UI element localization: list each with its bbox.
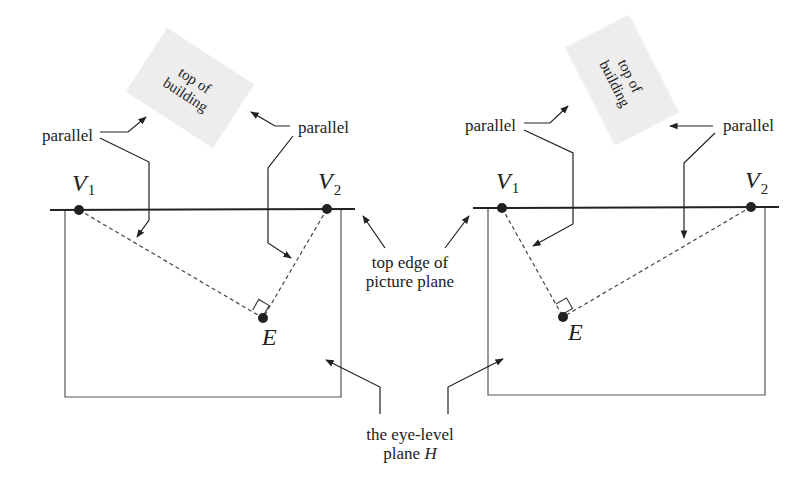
right-sightline-v1: [502, 208, 563, 317]
right-sightline-v2: [563, 207, 751, 317]
left-parallel2-arrow-building: [251, 112, 290, 126]
right-v1-label: V1: [496, 168, 519, 196]
left-e-point: [258, 313, 268, 323]
left-parallel-label-1: parallel: [42, 126, 93, 145]
right-eye-level-plane: [488, 207, 765, 395]
right-parallel2-arrow-sightline: [684, 133, 715, 238]
left-parallel-label-2: parallel: [298, 118, 349, 137]
left-eye-level-plane: [65, 210, 341, 397]
picture-plane-arrow-left: [363, 216, 385, 248]
left-parallel2-arrow-sightline: [268, 136, 293, 258]
eye-level-label-line2: plane H: [383, 444, 438, 463]
left-e-label: E: [261, 324, 277, 350]
right-picture-plane-edge: [473, 207, 779, 208]
center-labels: top edge of picture plane the eye-level …: [326, 216, 503, 463]
right-v1-point: [497, 203, 507, 213]
left-sightline-v1: [79, 210, 263, 318]
left-parallel-arrow-building: [100, 117, 146, 132]
right-right-angle-marker: [556, 298, 573, 315]
picture-plane-label-line1: top edge of: [372, 253, 449, 272]
right-e-point: [558, 312, 568, 322]
left-v2-point: [322, 204, 332, 214]
left-v2-label: V2: [318, 168, 341, 198]
left-parallel-arrow-sightline: [100, 138, 149, 237]
right-building-top: top of building: [565, 15, 679, 146]
eye-level-label-line1: the eye-level: [366, 425, 454, 444]
right-v2-point: [746, 202, 756, 212]
right-parallel-arrow-building: [524, 106, 568, 123]
picture-plane-label-line2: picture plane: [366, 272, 454, 291]
right-parallel-arrow-sightline: [524, 130, 573, 246]
left-sightline-v2: [263, 209, 327, 318]
right-parallel-label-1: parallel: [465, 116, 516, 135]
right-e-label: E: [567, 319, 583, 345]
right-parallel-label-2: parallel: [723, 116, 774, 135]
left-panel: top of building V1 V2 E parallel paralle…: [42, 28, 355, 397]
left-picture-plane-edge: [50, 209, 355, 210]
left-building-top: top of building: [126, 28, 255, 148]
right-v2-label: V2: [745, 167, 768, 197]
right-panel: top of building V1 V2 E parallel paralle…: [465, 15, 779, 395]
left-v1-label: V1: [72, 170, 95, 198]
left-v1-point: [74, 205, 84, 215]
eye-level-arrow-right: [448, 359, 503, 414]
picture-plane-arrow-right: [445, 216, 469, 248]
perspective-diagram: top of building V1 V2 E parallel paralle…: [0, 0, 812, 481]
eye-level-arrow-left: [326, 360, 380, 414]
